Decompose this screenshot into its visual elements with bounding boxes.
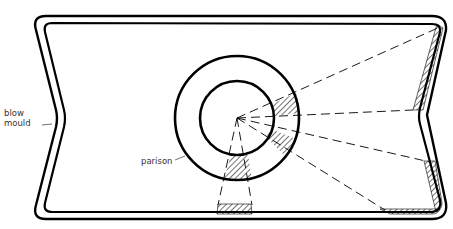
blow-mould-label-line2: mould [4,118,31,128]
parison-leader [175,156,185,160]
blow-mould-leader [42,124,52,125]
blow-mould-label-line1: blow [4,108,31,118]
hatch-ring-bottom [224,155,252,181]
radial-dashed-lines [218,27,440,210]
blow-mould-label: blow mould [4,108,31,128]
blow-mould-diagram [0,0,453,229]
parison-label: parison [141,156,172,166]
